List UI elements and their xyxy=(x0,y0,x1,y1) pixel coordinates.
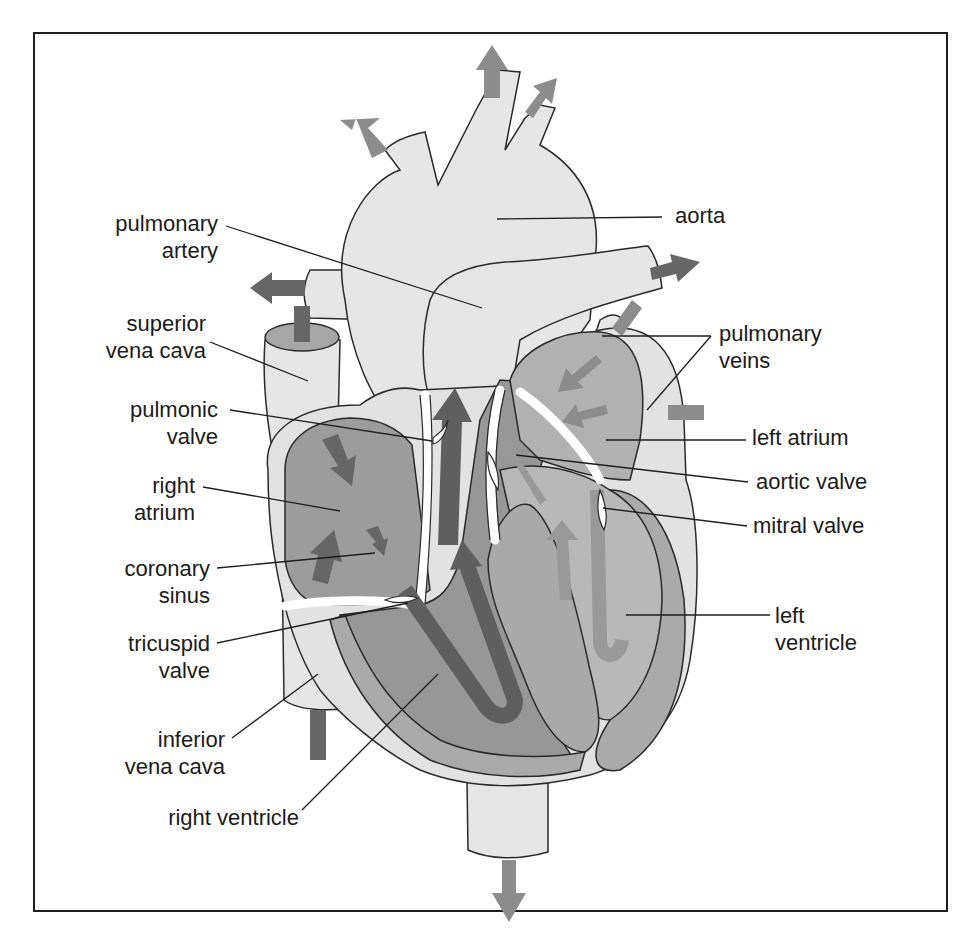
label-left-atrium: left atrium xyxy=(752,424,849,451)
descending-vessel-shape xyxy=(467,780,548,858)
arrow-svc-inflow-icon xyxy=(294,306,310,342)
arrow-left-pulmonary-icon xyxy=(250,272,305,304)
right-atrium-chamber xyxy=(285,418,430,605)
label-inferior-vena-cava: inferior vena cava xyxy=(125,726,225,780)
label-coronary-sinus: coronary sinus xyxy=(124,555,210,609)
arrow-right-pulmonary-icon xyxy=(650,254,700,282)
label-tricuspid-valve: tricuspid valve xyxy=(128,630,210,684)
label-pulmonic-valve: pulmonic valve xyxy=(130,396,218,450)
label-pulmonary-veins: pulmonary veins xyxy=(719,320,822,374)
label-left-ventricle: left ventricle xyxy=(775,602,857,656)
arrow-brachiocephalic-icon xyxy=(340,118,388,158)
label-right-atrium: right atrium xyxy=(134,472,195,526)
label-pulmonary-artery: pulmonary artery xyxy=(115,210,218,264)
label-superior-vena-cava: superior vena cava xyxy=(106,310,206,364)
label-right-ventricle: right ventricle xyxy=(168,804,299,831)
arrow-descending-outflow-icon xyxy=(492,860,526,922)
arrow-pulm-vein-lower-icon xyxy=(668,405,704,420)
arrow-ivc-inflow-icon xyxy=(310,710,326,760)
label-aortic-valve: aortic valve xyxy=(756,468,867,495)
label-aorta: aorta xyxy=(675,202,725,229)
label-mitral-valve: mitral valve xyxy=(753,512,864,539)
